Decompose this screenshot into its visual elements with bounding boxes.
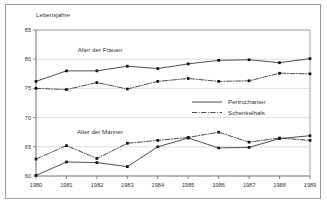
xtick-label-1983: 1983 bbox=[121, 182, 133, 188]
data-point bbox=[96, 81, 99, 84]
series-line-2-pertrochanter bbox=[36, 136, 310, 176]
data-point bbox=[96, 161, 99, 164]
data-point bbox=[309, 57, 312, 60]
series-line-0-pertrochanter bbox=[36, 59, 310, 82]
xtick-label-1982: 1982 bbox=[91, 182, 103, 188]
data-point bbox=[96, 70, 99, 73]
data-point bbox=[217, 80, 220, 83]
data-point bbox=[156, 139, 159, 142]
xtick-label-1987: 1987 bbox=[243, 182, 255, 188]
data-point bbox=[126, 88, 129, 91]
series-line-1-schenkelhals bbox=[36, 73, 310, 89]
data-point bbox=[248, 141, 251, 144]
line-chart: 6065707580851980198119821983198419851986… bbox=[0, 0, 327, 205]
data-point bbox=[217, 147, 220, 150]
data-point bbox=[65, 161, 68, 164]
ytick-label-70: 70 bbox=[25, 115, 31, 121]
legend-label-pertrochanter: Pertrochanter bbox=[228, 98, 266, 105]
xtick-label-1989: 1989 bbox=[304, 182, 316, 188]
xtick-label-1986: 1986 bbox=[212, 182, 224, 188]
data-point bbox=[65, 144, 68, 147]
data-point bbox=[126, 65, 129, 68]
series-line-3-schenkelhals bbox=[36, 132, 310, 159]
data-point bbox=[278, 72, 281, 75]
data-point bbox=[248, 79, 251, 82]
ytick-label-80: 80 bbox=[25, 56, 31, 62]
ytick-label-75: 75 bbox=[25, 85, 31, 91]
data-point bbox=[187, 63, 190, 66]
data-point bbox=[156, 145, 159, 148]
data-point bbox=[309, 72, 312, 75]
data-point bbox=[278, 137, 281, 140]
ytick-label-60: 60 bbox=[25, 173, 31, 179]
data-point bbox=[309, 134, 312, 137]
xtick-label-1985: 1985 bbox=[182, 182, 194, 188]
data-point bbox=[35, 174, 38, 177]
data-point bbox=[187, 136, 190, 139]
data-point bbox=[35, 158, 38, 161]
data-point bbox=[96, 157, 99, 160]
data-point bbox=[156, 67, 159, 70]
data-point bbox=[248, 58, 251, 61]
women-group-label: Alter der Frauen bbox=[78, 46, 123, 53]
chart-figure: 6065707580851980198119821983198419851986… bbox=[0, 0, 327, 205]
data-point bbox=[156, 80, 159, 83]
legend-label-schenkelhals: Schenkelhals bbox=[228, 109, 265, 116]
xtick-label-1984: 1984 bbox=[152, 182, 164, 188]
data-point bbox=[248, 146, 251, 149]
data-point bbox=[187, 77, 190, 80]
data-point bbox=[35, 87, 38, 90]
y-axis-title: Lebensjahre bbox=[36, 11, 71, 18]
data-point bbox=[309, 139, 312, 142]
data-point bbox=[217, 131, 220, 134]
data-point bbox=[126, 142, 129, 145]
ytick-label-65: 65 bbox=[25, 144, 31, 150]
data-point bbox=[278, 61, 281, 64]
xtick-label-1988: 1988 bbox=[273, 182, 285, 188]
data-point bbox=[217, 59, 220, 62]
xtick-label-1980: 1980 bbox=[30, 182, 42, 188]
xtick-label-1981: 1981 bbox=[60, 182, 72, 188]
ytick-label-85: 85 bbox=[25, 27, 31, 33]
data-point bbox=[65, 88, 68, 91]
data-point bbox=[65, 70, 68, 73]
data-point bbox=[35, 80, 38, 83]
data-point bbox=[126, 165, 129, 168]
men-group-label: Alter der Männer bbox=[77, 128, 123, 135]
